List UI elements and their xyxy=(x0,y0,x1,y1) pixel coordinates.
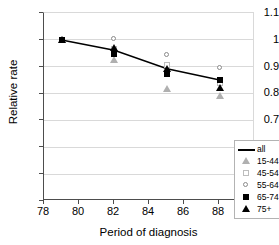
y-axis-title: Relative rate xyxy=(7,42,19,142)
x-tick-84: 84 xyxy=(133,206,163,217)
point-55-64-85 xyxy=(164,52,169,57)
x-tick-82: 82 xyxy=(98,206,128,217)
filled-square-icon xyxy=(237,191,257,203)
point-55-64-88 xyxy=(217,65,222,70)
x-tick-86: 86 xyxy=(168,206,198,217)
point-65-74-88 xyxy=(217,77,223,83)
filled-triangle-icon xyxy=(237,203,257,215)
legend-item-75plus[interactable]: 75+ xyxy=(237,203,279,215)
legend-item-15-44[interactable]: 15-44 xyxy=(237,155,279,167)
legend-label-65-74: 65-74 xyxy=(257,191,279,203)
x-tick-80: 80 xyxy=(63,206,93,217)
legend: all 15-44 45-54 55-64 65-74 75+ xyxy=(234,140,279,219)
relative-rate-chart: 1.1 1 0.9 0.8 0.7 0.6 0.5 0.4 78 80 82 8… xyxy=(0,0,279,245)
legend-label-75plus: 75+ xyxy=(257,203,271,215)
legend-label-all: all xyxy=(257,143,266,155)
legend-label-45-54: 45-54 xyxy=(257,167,279,179)
x-axis-title: Period of diagnosis xyxy=(43,226,254,238)
point-15-44-85 xyxy=(163,85,171,92)
x-tick-88: 88 xyxy=(203,206,233,217)
plot-area: all 15-44 45-54 55-64 65-74 75+ xyxy=(43,12,254,200)
point-15-44-88 xyxy=(216,92,224,99)
open-circle-icon xyxy=(237,179,257,191)
line-swatch-icon xyxy=(237,143,257,155)
legend-item-all[interactable]: all xyxy=(237,143,279,155)
open-triangle-icon xyxy=(237,155,257,167)
point-75plus-88 xyxy=(216,84,224,91)
point-65-74-82 xyxy=(111,51,117,57)
x-tick-78: 78 xyxy=(28,206,58,217)
legend-label-55-64: 55-64 xyxy=(257,179,279,191)
legend-item-55-64[interactable]: 55-64 xyxy=(237,179,279,191)
legend-item-65-74[interactable]: 65-74 xyxy=(237,191,279,203)
point-15-44-82 xyxy=(110,56,118,63)
point-65-74-79 xyxy=(59,37,65,43)
point-65-74-85 xyxy=(164,71,170,77)
legend-label-15-44: 15-44 xyxy=(257,155,279,167)
series-all-line xyxy=(44,13,255,201)
open-square-icon xyxy=(237,167,257,179)
legend-item-45-54[interactable]: 45-54 xyxy=(237,167,279,179)
